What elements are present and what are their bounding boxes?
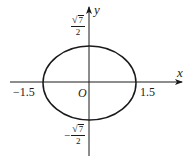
coordinate-diagram <box>0 0 190 164</box>
y-tick-positive-numerator: √ 7 <box>71 15 85 26</box>
x-axis-label: x <box>177 66 183 79</box>
radicand: 7 <box>78 124 85 134</box>
radicand: 7 <box>78 15 85 25</box>
y-tick-negative-label: − √ 7 2 <box>64 124 85 146</box>
y-axis-label: y <box>94 3 100 16</box>
x-tick-positive-label: 1.5 <box>140 86 155 98</box>
y-tick-positive-label: √ 7 2 <box>71 15 85 37</box>
y-tick-positive-denominator: 2 <box>76 27 81 37</box>
x-tick-negative-label: −1.5 <box>13 86 35 98</box>
y-tick-negative-denominator: 2 <box>76 136 81 146</box>
y-tick-negative-numerator: √ 7 <box>71 124 85 135</box>
origin-label: O <box>78 87 87 99</box>
minus-sign: − <box>64 129 70 141</box>
y-tick-negative-fraction: √ 7 2 <box>71 124 85 146</box>
